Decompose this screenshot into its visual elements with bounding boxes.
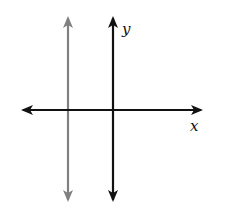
coordinate-diagram: y x [0,0,226,213]
x-axis-label: x [190,117,199,135]
y-axis-label: y [121,20,131,38]
